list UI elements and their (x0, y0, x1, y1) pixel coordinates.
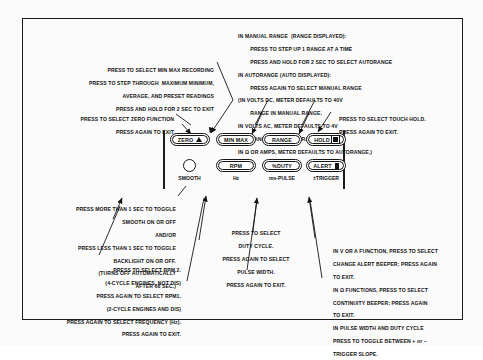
callout-alert-line-1: IN V OR A FUNCTION, PRESS TO SELECT (333, 248, 438, 254)
button-zero[interactable]: ZERO (170, 133, 210, 146)
callout-alert-line-4: IN Ω FUNCTIONS, PRESS TO SELECT (333, 287, 428, 293)
callout-duty-line-2: DUTY CYCLE. (239, 243, 274, 249)
callout-rpm-line-5: PRESS AGAIN TO SELECT FREQUENCY (Hz). (67, 319, 181, 325)
callout-min-max-line-2: PRESS TO STEP THROUGH MAXIMUM MINIMUM, (89, 80, 214, 86)
callout-smooth-line-4: PRESS LESS THAN 1 SEC TO TOGGLE (78, 245, 176, 251)
callout-smooth-line-3: AND/OR (155, 232, 176, 238)
button-zero-label: ZERO (178, 137, 193, 143)
callout-min-max-line-3: AVERAGE, AND PRESET READINGS (123, 93, 214, 99)
callout-duty-line-3: PRESS AGAIN TO SELECT (223, 256, 290, 262)
callout-range-line-4: IN AUTORANGE (AUTO DISPLAYED): (238, 72, 331, 78)
button-hold-label: HOLD (314, 137, 330, 143)
callout-hold-line-2: PRESS AGAIN TO EXIT. (339, 129, 398, 135)
callout-alert-line-3: TO EXIT. (333, 274, 354, 280)
warning-triangle-icon (196, 137, 202, 142)
callout-range-line-7: RANGE IN MANUAL RANGE. (238, 110, 322, 116)
button-alert-sublabel: ±TRIGGER (305, 175, 347, 181)
button-min-max-label: MIN MAX (224, 137, 248, 143)
button-duty-sublabel: ms-PULSE (260, 175, 304, 181)
callout-alert: IN V OR A FUNCTION, PRESS TO SELECT CHAN… (327, 242, 462, 360)
callout-alert-line-8: PRESS TO TOGGLE BETWEEN + or – (333, 338, 427, 344)
smooth-knob-label: SMOOTH (168, 175, 211, 181)
panel-left-rail (163, 131, 165, 189)
button-rpm-sublabel: Hz (216, 175, 256, 181)
callout-hold: PRESS TO SELECT TOUCH HOLD. PRESS AGAIN … (333, 110, 458, 142)
callout-rpm-line-3: PRESS AGAIN TO SELECT RPM1. (96, 293, 181, 299)
button-range-label: RANGE (272, 137, 292, 143)
callout-zero: PRESS TO SELECT ZERO FUNCTION PRESS AGAI… (40, 110, 174, 142)
button-duty[interactable]: %DUTY (262, 159, 302, 172)
keypad-panel: ZERO MIN MAX RANGE HOLD SMOOTH RPM Hz %D… (163, 131, 345, 193)
callout-rpm: PRESS TO SELECT RPM 2. (4-CYCLE ENGINES,… (24, 261, 181, 344)
callout-smooth-line-2: SMOOTH ON OR OFF (122, 219, 176, 225)
callout-duty-line-4: PULSE WIDTH. (237, 269, 275, 275)
callout-zero-line-1: PRESS TO SELECT ZERO FUNCTION (81, 116, 174, 122)
callout-rpm-line-6: PRESS AGAIN TO EXIT. (122, 331, 181, 337)
callout-range-line-2: PRESS TO STEP UP 1 RANGE AT A TIME (238, 46, 352, 52)
smooth-knob-icon[interactable] (183, 159, 196, 172)
callout-rpm-line-1: PRESS TO SELECT RPM 2. (113, 267, 181, 273)
callout-duty-line-1: PRESS TO SELECT (232, 230, 281, 236)
button-alert-label: ALERT (313, 163, 332, 169)
callout-duty-line-5: PRESS AGAIN TO EXIT. (227, 282, 286, 288)
callout-alert-line-9: TRIGGER SLOPE. (333, 351, 378, 357)
callout-hold-line-1: PRESS TO SELECT TOUCH HOLD. (339, 116, 426, 122)
button-min-max[interactable]: MIN MAX (216, 133, 256, 146)
callout-rpm-line-4: (2-CYCLE ENGINES AND DIS) (107, 306, 181, 312)
callout-alert-line-2: CHANGE ALERT BEEPER; PRESS AGAIN (333, 261, 437, 267)
callout-alert-line-7: IN PULSE WIDTH AND DUTY CYCLE (333, 325, 424, 331)
button-hold[interactable]: HOLD (306, 133, 346, 146)
callout-min-max-line-1: PRESS TO SELECT MIN MAX RECORDING (107, 67, 214, 73)
callout-alert-line-5: CONTINUITY BEEPER; PRESS AGAIN (333, 300, 427, 306)
callout-smooth-line-1: PRESS MORE THAN 1 SEC TO TOGGLE (76, 206, 176, 212)
callout-range-line-6: (IN VOLTS DC, METER DEFAULTS TO 40V (238, 97, 343, 103)
button-range[interactable]: RANGE (262, 133, 302, 146)
button-rpm-label: RPM (230, 163, 242, 169)
alert-beeper-icon (335, 163, 339, 169)
callout-range-line-5: PRESS AGAIN TO SELECT MANUAL RANGE (238, 85, 362, 91)
button-alert[interactable]: ALERT (306, 159, 346, 172)
callout-range-line-3: PRESS AND HOLD FOR 2 SEC TO SELECT AUTOR… (238, 59, 392, 65)
button-duty-label: %DUTY (272, 163, 292, 169)
touch-hold-icon (333, 137, 338, 142)
callout-duty: PRESS TO SELECT DUTY CYCLE. PRESS AGAIN … (207, 224, 299, 294)
callout-rpm-line-2: (4-CYCLE ENGINES, NOT DIS) (105, 280, 181, 286)
callout-alert-line-6: TO EXIT. (333, 312, 354, 318)
callout-range-line-1: IN MANUAL RANGE (RANGE DISPLAYED): (238, 33, 346, 39)
button-rpm[interactable]: RPM (216, 159, 256, 172)
callout-range-line-8: IN VOLTS AC, METER DEFAULTS TO 4V (238, 123, 338, 129)
